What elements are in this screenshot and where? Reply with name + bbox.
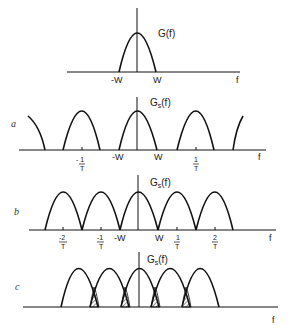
replica-0	[119, 111, 157, 150]
tick-label-w: W	[153, 75, 162, 85]
svg-text:T: T	[80, 165, 85, 172]
replica-plus-2	[196, 192, 233, 230]
tick-label-minus-w: -W	[111, 75, 123, 85]
partial-replica-left	[28, 116, 45, 150]
gs-of-f-label: Gs(f)	[150, 177, 171, 189]
svg-text:- 1: - 1	[76, 156, 84, 163]
replica-minus-1	[63, 111, 100, 150]
svg-text:2: 2	[213, 234, 217, 241]
svg-text:-2: -2	[59, 234, 65, 241]
gs-of-f-label: Gs(f)	[147, 254, 168, 266]
replica-0	[120, 192, 158, 230]
panel-tag-a: a	[11, 118, 16, 129]
svg-text:1: 1	[194, 156, 198, 163]
gs-of-f-label: Gs(f)	[150, 97, 171, 109]
replica-plus-1	[177, 111, 214, 150]
tick-label-minus-w: -W	[114, 233, 126, 243]
svg-text:T: T	[175, 243, 180, 250]
tick-label-minus-w: -W	[112, 152, 124, 162]
panel-c: c Gs(f) f	[15, 252, 278, 325]
svg-text:T: T	[194, 165, 199, 172]
panel-tag-b: b	[14, 206, 19, 217]
replica-plus-1	[158, 192, 196, 230]
tick-label-minus-2-over-t: -2 T	[59, 234, 67, 250]
sampling-spectrum-figure: G(f) -W W f a Gs(f) - 1 T -W W 1 T f	[0, 0, 288, 329]
svg-text:T: T	[61, 243, 66, 250]
tick-label-minus-1-over-t: - 1 T	[76, 156, 85, 172]
panel-tag-c: c	[15, 281, 20, 292]
tick-label-1-over-t: 1 T	[174, 234, 180, 250]
f-axis-label: f	[236, 75, 239, 85]
svg-text:T: T	[213, 243, 218, 250]
panel-original: G(f) -W W f	[67, 8, 240, 85]
panel-b: b Gs(f) -2 T -1 T -W W 1 T	[14, 175, 276, 250]
replica-minus-2	[45, 192, 82, 230]
f-axis-label: f	[269, 233, 272, 243]
panel-a: a Gs(f) - 1 T -W W 1 T f	[11, 97, 266, 172]
svg-text:1: 1	[176, 234, 180, 241]
tick-label-w: W	[155, 233, 164, 243]
replica-minus-1	[82, 192, 120, 230]
tick-label-1-over-t: 1 T	[193, 156, 199, 172]
svg-text:-1: -1	[97, 234, 103, 241]
svg-text:T: T	[99, 243, 104, 250]
g-of-f-label: G(f)	[158, 28, 175, 39]
partial-replica-right	[233, 116, 243, 150]
f-axis-label: f	[272, 315, 275, 325]
tick-label-w: W	[154, 152, 163, 162]
tick-label-2-over-t: 2 T	[212, 234, 218, 250]
f-axis-label: f	[258, 152, 261, 162]
tick-label-minus-1-over-t: -1 T	[97, 234, 104, 250]
